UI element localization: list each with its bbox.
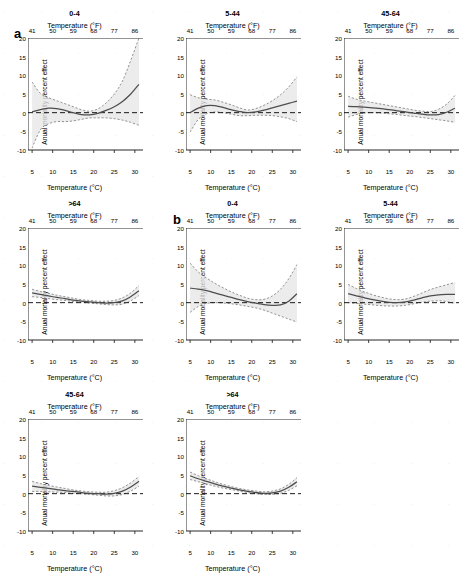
tick-label-y: 10 [19, 453, 26, 460]
tick-label-c: 15 [228, 549, 235, 556]
tick-label-y: 15 [177, 243, 184, 250]
tick-label-c: 25 [269, 358, 276, 365]
bottom-tick-labels: 51015202530 [344, 358, 457, 368]
tick-label-y: 15 [19, 53, 26, 60]
tick-label-f: 50 [207, 27, 214, 34]
tick-label-y: 5 [23, 281, 26, 288]
tick-label-y: -5 [178, 509, 184, 516]
y-tick-labels: 20151050-5-10 [170, 38, 184, 150]
panel-title: >64 [158, 390, 307, 399]
bottom-axis-title: Temperature (°C) [316, 373, 465, 382]
figure-root: 0-4Temperature (°F)Temperature (°C)Anual… [0, 0, 469, 578]
panel-title: 45-64 [316, 9, 465, 18]
tick-label-y: 5 [339, 91, 342, 98]
tick-label-f: 59 [70, 27, 77, 34]
exposure-response-plot [186, 419, 301, 549]
tick-label-f: 41 [187, 408, 194, 415]
tick-label-f: 68 [248, 217, 255, 224]
plot-area: Anual mortality percent effect4150596877… [344, 38, 457, 166]
tick-label-y: -10 [17, 528, 26, 535]
tick-label-c: 30 [289, 358, 296, 365]
top-tick-labels: 415059687786 [28, 408, 141, 418]
tick-label-f: 86 [131, 408, 138, 415]
tick-label-c: 25 [111, 358, 118, 365]
bottom-tick-labels: 51015202530 [344, 168, 457, 178]
bottom-tick-labels: 51015202530 [28, 358, 141, 368]
exposure-response-plot [28, 419, 143, 549]
exposure-response-plot [28, 228, 143, 358]
tick-label-y: 10 [19, 72, 26, 79]
tick-label-y: 15 [335, 53, 342, 60]
tick-label-f: 86 [289, 27, 296, 34]
tick-label-f: 50 [207, 408, 214, 415]
tick-label-y: 15 [177, 53, 184, 60]
tick-label-f: 41 [187, 217, 194, 224]
bottom-axis-title: Temperature (°C) [158, 564, 307, 573]
tick-label-f: 77 [269, 217, 276, 224]
y-tick-labels: 20151050-5-10 [328, 38, 342, 150]
tick-label-f: 77 [269, 27, 276, 34]
tick-label-c: 20 [248, 168, 255, 175]
panel-group-letter-b: b [173, 212, 181, 227]
tick-label-y: 20 [177, 416, 184, 423]
tick-label-c: 20 [406, 168, 413, 175]
y-tick-labels: 20151050-5-10 [170, 228, 184, 340]
tick-label-y: -5 [336, 128, 342, 135]
tick-label-y: -5 [178, 318, 184, 325]
tick-label-y: 20 [19, 225, 26, 232]
y-tick-labels: 20151050-5-10 [170, 419, 184, 531]
tick-label-c: 10 [49, 358, 56, 365]
tick-label-y: -5 [336, 318, 342, 325]
tick-label-y: 15 [19, 243, 26, 250]
tick-label-f: 41 [29, 408, 36, 415]
tick-label-y: -10 [333, 337, 342, 344]
tick-label-f: 68 [90, 27, 97, 34]
tick-label-f: 50 [365, 27, 372, 34]
bottom-axis-title: Temperature (°C) [0, 564, 149, 573]
tick-label-c: 25 [427, 358, 434, 365]
exposure-response-plot [186, 228, 301, 358]
tick-label-y: 0 [181, 299, 184, 306]
tick-label-f: 41 [29, 27, 36, 34]
chart-panel-a-544: 5-44Temperature (°F)Temperature (°C)Anua… [158, 0, 307, 193]
tick-label-y: 0 [23, 109, 26, 116]
tick-label-y: 5 [23, 472, 26, 479]
tick-label-f: 68 [406, 217, 413, 224]
chart-panel-a-64: >64Temperature (°F)Temperature (°C)Anual… [0, 190, 149, 383]
tick-label-f: 86 [289, 408, 296, 415]
tick-label-y: 15 [177, 434, 184, 441]
tick-label-y: 10 [177, 453, 184, 460]
plot-area: Anual mortality percent effect4150596877… [28, 38, 141, 166]
tick-label-y: 5 [339, 281, 342, 288]
bottom-tick-labels: 51015202530 [186, 358, 299, 368]
tick-label-f: 59 [228, 408, 235, 415]
tick-label-c: 10 [49, 168, 56, 175]
plot-area: Anual mortality percent effect4150596877… [28, 419, 141, 547]
tick-label-f: 41 [345, 27, 352, 34]
tick-label-y: 0 [181, 490, 184, 497]
tick-label-f: 50 [49, 27, 56, 34]
tick-label-f: 41 [29, 217, 36, 224]
tick-label-f: 59 [70, 408, 77, 415]
tick-label-c: 25 [269, 168, 276, 175]
chart-panel-b-544: 5-44Temperature (°F)Temperature (°C)Anua… [316, 190, 465, 383]
tick-label-c: 20 [406, 358, 413, 365]
tick-label-f: 50 [49, 217, 56, 224]
tick-label-c: 30 [131, 168, 138, 175]
tick-label-c: 5 [188, 358, 191, 365]
tick-label-y: 20 [335, 35, 342, 42]
tick-label-y: -5 [178, 128, 184, 135]
tick-label-c: 30 [289, 549, 296, 556]
chart-panel-b-64: >64Temperature (°F)Temperature (°C)Anual… [158, 381, 307, 574]
exposure-response-plot [186, 38, 301, 168]
panel-title: 0-4 [158, 199, 307, 208]
bottom-tick-labels: 51015202530 [186, 549, 299, 559]
tick-label-c: 5 [346, 358, 349, 365]
exposure-response-plot [28, 38, 143, 168]
tick-label-c: 20 [90, 358, 97, 365]
tick-label-f: 68 [90, 408, 97, 415]
tick-label-f: 86 [131, 217, 138, 224]
tick-label-f: 50 [365, 217, 372, 224]
tick-label-c: 25 [111, 168, 118, 175]
top-tick-labels: 415059687786 [28, 217, 141, 227]
